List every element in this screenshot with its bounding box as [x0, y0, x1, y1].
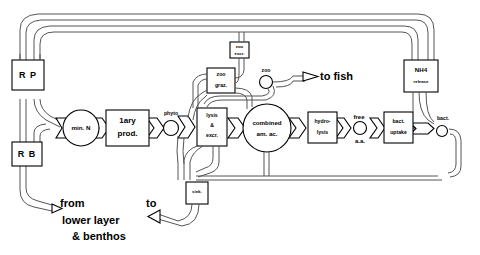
node-free-amino-acids[interactable]: free a.a.	[353, 114, 366, 144]
node-zoo-label: zoo	[262, 67, 271, 73]
node-bact-uptake-label-1: bact.	[392, 118, 405, 124]
flow-arrow-uptake-to-bact	[410, 123, 434, 134]
flow-arrow-prod-to-phyto	[147, 118, 164, 138]
node-combined-label-2: am. ac.	[257, 130, 278, 137]
node-rb[interactable]: R B	[12, 142, 42, 166]
node-combined-label-1: combined	[252, 119, 281, 126]
node-hydrolysis-label-2: lysis	[317, 129, 329, 135]
node-hydrolysis[interactable]: hydro- lysis	[308, 112, 337, 143]
node-nh4-release-label-2: release	[414, 79, 429, 84]
node-phyto[interactable]: phyto	[164, 110, 179, 135]
node-bact-uptake-label-2: uptake	[390, 129, 407, 135]
node-bact[interactable]: bact.	[437, 115, 450, 136]
pipe-bottom-return-trunk	[196, 152, 442, 180]
node-primary-production-label-2: prod.	[118, 129, 138, 138]
pipe-zooexcr-to-toploop	[239, 32, 244, 42]
pipe-rb-to-minn	[34, 124, 50, 142]
pipe-phyto-to-sink	[177, 136, 184, 180]
flow-arrow-hydro-to-freeaa	[336, 118, 351, 138]
node-zoo-excr-label-2: excr.	[235, 51, 245, 56]
pipe-rp-join	[20, 54, 40, 60]
node-lysis-label-3: excr.	[206, 132, 218, 138]
flow-arrow-phyto-to-lysis	[178, 116, 195, 138]
pipe-left-trunk	[20, 99, 62, 142]
node-bact-label: bact.	[437, 115, 450, 121]
node-free-aa-label-1: free	[353, 114, 365, 120]
pipe-lysis-lower-loop	[184, 146, 203, 180]
node-primary-production[interactable]: 1ary prod.	[106, 110, 149, 146]
node-zoo[interactable]: zoo	[260, 67, 273, 88]
pipe-bact-return-loop	[448, 129, 461, 177]
node-nh4-release-label-1: NH4	[415, 66, 428, 73]
annotation-to-fish: to fish	[320, 70, 353, 82]
annotation-lower-layer: lower layer	[62, 214, 120, 226]
pipe-nh4-down	[413, 92, 434, 124]
node-lysis-label-1: lysis	[206, 112, 218, 118]
pipe-zoograz-to-combined	[235, 88, 252, 109]
node-rp-label: R P	[19, 70, 37, 80]
node-sink[interactable]: sink.	[186, 182, 208, 204]
node-lysis-excretion[interactable]: lysis & excr.	[197, 108, 227, 146]
node-zoo-graz-label-1: zoo	[217, 71, 226, 77]
node-primary-production-label-1: 1ary	[119, 116, 136, 125]
node-lysis-label-2: &	[210, 122, 214, 128]
node-rb-label: R B	[18, 149, 37, 159]
annotation-benthos: & benthos	[72, 230, 126, 242]
node-zoo-excretion[interactable]: zoo excr.	[230, 42, 249, 58]
annotation-to: to	[146, 197, 157, 209]
node-combined-amino-acids[interactable]: combined am. ac.	[243, 104, 291, 152]
node-zoo-excr-label-1: zoo	[236, 44, 244, 49]
node-nh4-release[interactable]: NH4 release	[404, 60, 438, 92]
flow-diagram-svg: R P R B min. N 1ary prod. phyto lysis & …	[0, 0, 480, 255]
node-sink-label: sink.	[192, 189, 202, 194]
node-phyto-label: phyto	[164, 110, 178, 116]
node-bacterial-uptake[interactable]: bact. uptake	[384, 112, 413, 143]
node-free-aa-label-2: a.a.	[355, 138, 365, 144]
node-zoo-grazing[interactable]: zoo graz.	[207, 68, 235, 93]
pipe-lysis-branch-down	[196, 146, 219, 177]
pipe-rb-bottom	[20, 166, 62, 213]
flow-arrow-freeaa-to-uptake	[370, 118, 385, 138]
node-rp[interactable]: R P	[12, 60, 44, 90]
pipe-zoograz-to-zooexcr	[235, 58, 244, 83]
node-zoo-graz-label-2: graz.	[215, 82, 228, 88]
diagram-canvas: R P R B min. N 1ary prod. phyto lysis & …	[0, 0, 480, 255]
pipe-zoo-to-fish	[273, 72, 318, 87]
node-min-n[interactable]: min. N	[63, 110, 99, 146]
node-hydrolysis-label-1: hydro-	[314, 118, 330, 124]
node-min-n-label: min. N	[72, 124, 91, 131]
flow-arrow-lysis-to-combined	[228, 118, 245, 138]
annotation-from: from	[60, 197, 85, 209]
pipe-outer-top-loop	[20, 14, 434, 75]
